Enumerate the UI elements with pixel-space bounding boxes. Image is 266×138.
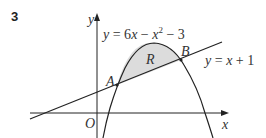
origin-label: O <box>85 117 95 131</box>
curve-equation-label: y = 6x − x2 − 3 <box>103 26 185 42</box>
y-axis-label: y <box>88 13 94 27</box>
point-a-marker <box>115 83 118 86</box>
x-axis-label: x <box>222 118 228 132</box>
region-r-label: R <box>146 53 155 67</box>
curve-eq-eq: = 6 <box>109 27 131 42</box>
curve-eq-rest: − 3 <box>163 27 185 42</box>
y-axis-arrow-icon <box>94 13 100 21</box>
line-y-equals-x-plus-1 <box>30 42 222 119</box>
curve-eq-minus: − <box>137 27 152 42</box>
line-eq-rest: + 1 <box>232 53 254 68</box>
line-eq-eq: = <box>211 53 226 68</box>
point-b-label: B <box>181 45 190 59</box>
line-equation-label: y = x + 1 <box>205 54 254 68</box>
x-axis-arrow-icon <box>221 110 229 116</box>
point-a-label: A <box>106 75 115 89</box>
